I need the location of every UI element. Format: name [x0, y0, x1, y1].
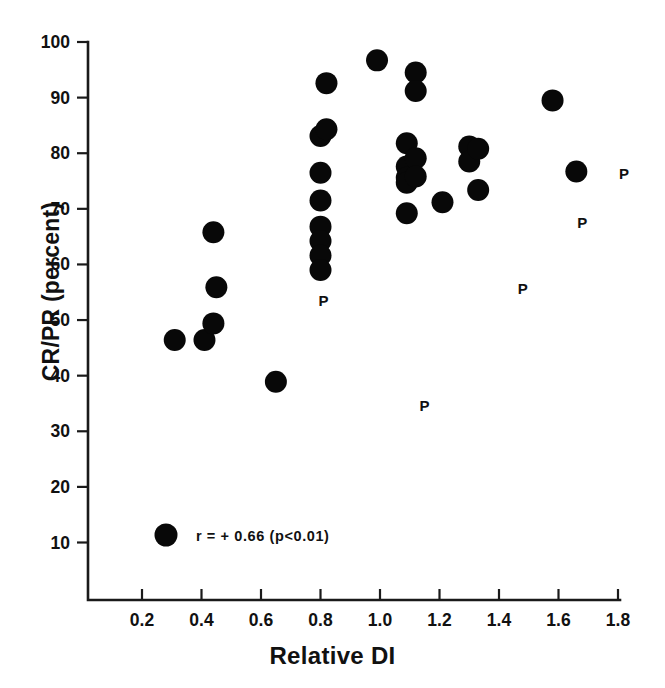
y-axis-title: CR/PR (percent): [38, 177, 65, 407]
data-point: [164, 329, 186, 351]
x-tick-label: 1.8: [606, 610, 631, 630]
p-label-marker: P: [420, 397, 430, 414]
x-tick-label: 0.6: [249, 610, 274, 630]
data-point: [405, 80, 427, 102]
legend: r = + 0.66 (p<0.01): [155, 524, 330, 547]
data-point: [202, 221, 224, 243]
data-point: [565, 161, 587, 183]
data-point: [467, 138, 489, 160]
x-tick-label: 0.4: [189, 610, 214, 630]
data-point: [315, 72, 337, 94]
p-label-marker: P: [619, 165, 629, 182]
data-point: [396, 202, 418, 224]
y-tick-label: 80: [51, 143, 71, 163]
y-tick-label: 90: [51, 88, 71, 108]
data-point: [366, 49, 388, 71]
p-label-marker: P: [577, 214, 587, 231]
x-tick-label: 0.8: [308, 610, 333, 630]
data-point: [205, 276, 227, 298]
axes: [88, 42, 620, 600]
legend-label: r = + 0.66 (p<0.01): [196, 528, 330, 544]
data-point: [431, 191, 453, 213]
x-tick-label: 0.2: [130, 610, 155, 630]
y-tick-label: 10: [51, 533, 71, 553]
data-point: [405, 166, 427, 188]
y-tick-label: 30: [51, 421, 71, 441]
data-point: [265, 371, 287, 393]
scatter-plot-figure: 102030405060708090100 0.20.40.60.81.01.2…: [0, 0, 665, 688]
p-label-layer: PPPPP: [318, 165, 628, 414]
x-axis-title: Relative DI: [0, 642, 665, 670]
data-point: [202, 312, 224, 334]
data-point: [310, 259, 332, 281]
data-point: [310, 162, 332, 184]
y-tick-label: 100: [41, 32, 70, 52]
data-point: [542, 89, 564, 111]
data-point: [310, 189, 332, 211]
data-point-layer: [164, 49, 588, 392]
x-tick-label: 1.2: [427, 610, 452, 630]
data-point: [315, 118, 337, 140]
x-tick-label: 1.0: [368, 610, 393, 630]
x-axis-ticks: 0.20.40.60.81.01.21.41.61.8: [130, 589, 631, 630]
p-label-marker: P: [518, 280, 528, 297]
data-point: [467, 179, 489, 201]
y-tick-label: 20: [51, 477, 71, 497]
axis-lines: [88, 42, 620, 600]
legend-marker-icon: [155, 524, 178, 547]
x-tick-label: 1.4: [487, 610, 512, 630]
p-label-marker: P: [318, 292, 328, 309]
x-tick-label: 1.6: [546, 610, 571, 630]
plot-canvas: 102030405060708090100 0.20.40.60.81.01.2…: [0, 0, 665, 688]
